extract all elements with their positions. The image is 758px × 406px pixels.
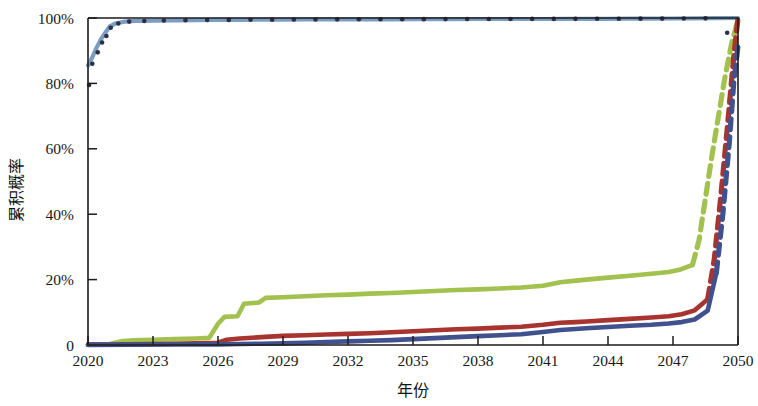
y-tick-label: 100% xyxy=(38,10,74,27)
y-tick-label: 80% xyxy=(46,75,75,92)
data-point-marker xyxy=(108,26,113,31)
data-point-marker xyxy=(104,34,109,39)
x-tick-label: 2020 xyxy=(73,352,104,369)
x-tick-label: 2038 xyxy=(463,352,494,369)
data-point-marker xyxy=(725,30,730,35)
x-tick-label: 2035 xyxy=(398,352,429,369)
data-point-marker xyxy=(95,50,100,55)
y-axis-title: 累积概率 xyxy=(7,158,26,222)
x-tick-label: 2041 xyxy=(528,352,559,369)
y-tick-label: 20% xyxy=(46,271,75,288)
x-tick-label: 2029 xyxy=(268,352,299,369)
x-tick-label: 2047 xyxy=(658,352,689,369)
y-tick-label: 40% xyxy=(46,206,75,223)
x-tick-label: 2032 xyxy=(333,352,364,369)
cumulative-probability-chart: 020%40%60%80%100% 2020202320262029203220… xyxy=(0,0,758,406)
x-axis-title: 年份 xyxy=(397,381,429,400)
data-point-marker xyxy=(142,19,147,24)
data-point-marker xyxy=(100,40,105,45)
data-point-marker xyxy=(116,21,121,26)
y-tick-label: 60% xyxy=(46,140,75,157)
chart-figure: 020%40%60%80%100% 2020202320262029203220… xyxy=(0,0,758,406)
y-tick-label: 0 xyxy=(66,337,74,354)
x-tick-label: 2026 xyxy=(203,352,234,369)
data-point-marker xyxy=(127,19,132,24)
plot-background xyxy=(88,18,738,345)
x-tick-label: 2044 xyxy=(593,352,624,369)
x-tick-label: 2050 xyxy=(723,352,754,369)
data-point-marker xyxy=(162,18,167,23)
data-point-marker xyxy=(90,61,95,66)
x-tick-label: 2023 xyxy=(138,352,169,369)
